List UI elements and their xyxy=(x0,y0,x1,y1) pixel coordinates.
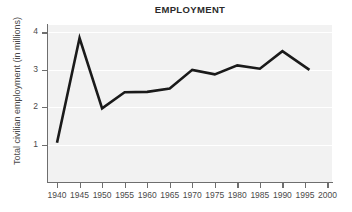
series-canvas xyxy=(0,0,352,212)
chart-figure: EMPLOYMENT Total civilian employment (in… xyxy=(0,0,352,212)
employment-line xyxy=(57,38,309,143)
